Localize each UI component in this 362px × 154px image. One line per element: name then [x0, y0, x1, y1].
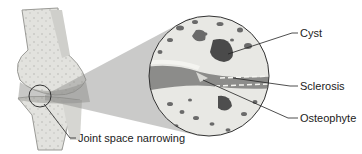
magnified-view	[140, 10, 280, 150]
label-sclerosis: Sclerosis	[300, 80, 345, 92]
label-joint-space-narrowing: Joint space narrowing	[78, 132, 185, 144]
label-cyst: Cyst	[300, 27, 322, 39]
diagram-graphic	[0, 0, 362, 154]
label-osteophyte: Osteophyte	[300, 112, 356, 124]
osteoarthritis-diagram: Cyst Sclerosis Osteophyte Joint space na…	[0, 0, 362, 154]
